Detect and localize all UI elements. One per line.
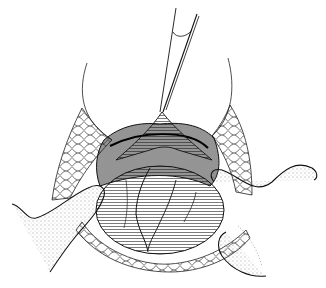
surgical-illustration <box>0 0 326 288</box>
central-organ <box>96 166 224 254</box>
right-finger <box>211 165 317 187</box>
illustration-svg <box>0 0 326 288</box>
forceps <box>160 8 199 112</box>
